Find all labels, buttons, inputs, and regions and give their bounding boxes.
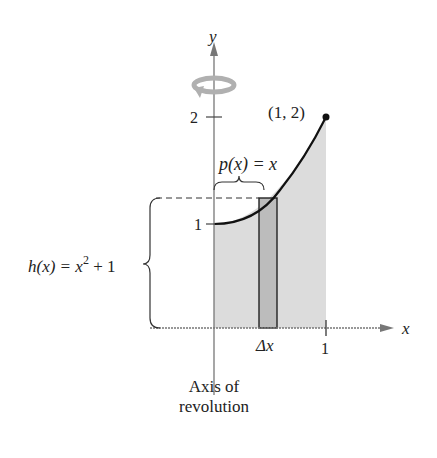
endpoint-dot — [323, 114, 330, 121]
representative-rectangle — [259, 198, 277, 328]
volume-shell-diagram: y x 2 1 1 (1, 2) p(x) = x Δx h(x) = x2 +… — [0, 0, 437, 458]
dx-label: Δx — [255, 336, 274, 355]
y-tick-label-1: 1 — [194, 216, 202, 233]
h-brace — [143, 198, 160, 328]
x-axis-arrow-icon — [380, 324, 394, 332]
axis-caption-line2: revolution — [179, 397, 249, 416]
p-label: p(x) = x — [217, 154, 277, 175]
h-label: h(x) = x2 + 1 — [28, 253, 115, 276]
point-label: (1, 2) — [268, 103, 305, 122]
y-axis-label: y — [207, 27, 217, 46]
axis-caption-line1: Axis of — [189, 377, 240, 396]
x-tick-label-1: 1 — [321, 340, 329, 357]
p-brace — [214, 176, 264, 190]
x-axis-label: x — [401, 319, 410, 338]
y-tick-label-2: 2 — [190, 109, 198, 126]
